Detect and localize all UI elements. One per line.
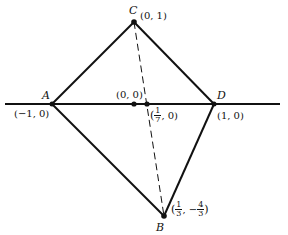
edge-CD: [134, 22, 214, 104]
coord-C: (0, 1): [140, 11, 167, 21]
intersection-dot: [144, 101, 149, 106]
origin-dot: [131, 101, 136, 106]
label-A: A: [42, 90, 50, 101]
point-B-dot: [161, 213, 167, 219]
coord-D: (1, 0): [217, 111, 244, 121]
point-C-dot: [131, 19, 137, 25]
label-C: C: [129, 5, 137, 16]
coord-A: (−1, 0): [14, 109, 49, 119]
coord-suffix: , 0): [161, 110, 178, 121]
edge-AB: [52, 104, 164, 216]
coord-origin: (0, 0): [116, 90, 143, 100]
coord-intersection: (17, 0): [150, 107, 178, 124]
separator: , −: [182, 204, 197, 215]
point-A-dot: [50, 102, 55, 107]
label-D: D: [217, 90, 226, 101]
label-B: B: [156, 222, 164, 233]
point-D-dot: [212, 102, 217, 107]
coord-B: (13, −43): [171, 201, 209, 218]
paren-close: ): [204, 203, 208, 216]
